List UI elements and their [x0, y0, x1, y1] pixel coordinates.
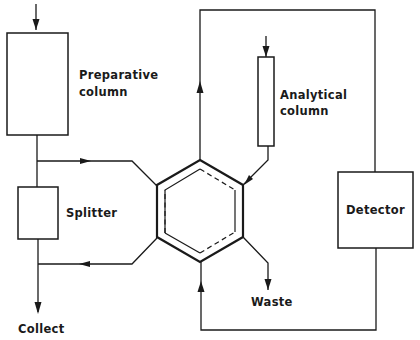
- valve-to-collect-line: [38, 238, 157, 264]
- splitter-box: [18, 187, 58, 239]
- valve-to-waste-line: [243, 237, 268, 290]
- prep-to-valve-connection: [37, 158, 157, 186]
- valve-inner-solid-upper-left: [165, 169, 200, 233]
- valve-inner-solid-lower-left: [165, 233, 200, 253]
- waste-arrow-icon: [265, 279, 272, 290]
- detector-to-valve-connection: [198, 248, 377, 330]
- splitter-label: Splitter: [66, 206, 117, 220]
- preparative-column-label-line1: Preparative: [79, 68, 158, 82]
- analytical-column: Analytical column: [243, 36, 347, 185]
- valve-inner-dashed-upper-right: [200, 169, 235, 190]
- detector-label: Detector: [346, 203, 405, 217]
- switching-valve: [157, 160, 243, 262]
- valve-outer-hexagon: [157, 160, 243, 262]
- prep-to-valve-line: [37, 161, 157, 186]
- preparative-column: Preparative column: [7, 4, 158, 135]
- detector-to-valve-line: [201, 248, 376, 330]
- collect-arrow-icon: [35, 302, 42, 314]
- valve-inner-dashed-lower-right: [200, 232, 235, 253]
- analytical-to-valve-line: [243, 146, 268, 185]
- valve-to-collect-connection: [38, 238, 157, 267]
- return-up-arrow-icon: [198, 281, 205, 292]
- right-arrow-icon: [80, 158, 91, 164]
- diagram-canvas: Preparative column Splitter Collect: [0, 0, 420, 340]
- waste-outlet: Waste: [243, 237, 293, 309]
- preparative-column-label-line2: column: [79, 85, 128, 99]
- analytical-column-label-line2: column: [280, 104, 329, 118]
- analytical-column-box: [258, 57, 274, 146]
- waste-label: Waste: [251, 295, 293, 309]
- analytical-column-label-line1: Analytical: [280, 88, 347, 102]
- splitter: Splitter: [18, 187, 117, 239]
- detector: Detector: [338, 172, 413, 248]
- preparative-column-box: [7, 33, 68, 135]
- prep-inlet-arrow-icon: [33, 19, 40, 30]
- collect-label: Collect: [18, 322, 65, 336]
- up-arrow-icon: [197, 81, 204, 93]
- left-arrow-icon: [79, 261, 90, 267]
- analytical-inlet-arrow-icon: [263, 46, 270, 57]
